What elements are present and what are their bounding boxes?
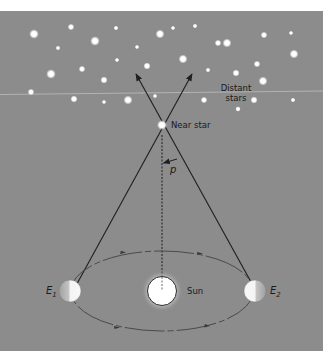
distant-star-core <box>225 41 229 45</box>
stellar-parallax-diagram: Distant stars p Near star Sun E1 E2 <box>0 0 332 360</box>
distant-star-core <box>216 41 219 44</box>
distant-star-core <box>262 33 265 36</box>
distant-star-core <box>202 98 205 101</box>
distant-star-core <box>103 101 105 103</box>
distant-star-core <box>261 79 265 83</box>
near-star-label: Near star <box>171 120 211 130</box>
sun-label: Sun <box>187 286 203 296</box>
distant-star-core <box>126 98 130 102</box>
distant-star-core <box>292 99 294 101</box>
parallax-angle-label: p <box>169 164 176 175</box>
distant-star-core <box>102 78 105 81</box>
distant-star-core <box>29 90 32 93</box>
distant-star-core <box>69 25 72 28</box>
distant-star-core <box>116 59 118 61</box>
distant-star-core <box>181 57 185 61</box>
distant-star-core <box>290 32 292 34</box>
distant-star-core <box>207 69 209 71</box>
distant-star-core <box>72 97 75 100</box>
distant-stars-label-line2: stars <box>226 93 247 103</box>
distant-star-core <box>115 27 117 29</box>
distant-stars-label: Distant <box>221 83 252 93</box>
distant-star-core <box>154 95 156 97</box>
distant-star-core <box>32 32 36 36</box>
distant-star-core <box>80 67 83 70</box>
distant-star-core <box>292 52 296 56</box>
distant-star-core <box>93 39 97 43</box>
distant-star-core <box>255 62 258 65</box>
distant-star-core <box>49 72 53 76</box>
distant-star-core <box>234 71 237 74</box>
distant-star-core <box>145 64 148 67</box>
near-star-core <box>159 122 164 127</box>
distant-star-core <box>194 25 196 27</box>
distant-star-core <box>172 27 174 29</box>
distant-star-core <box>158 32 162 36</box>
distant-star-core <box>136 46 138 48</box>
distant-star-core <box>57 47 59 49</box>
distant-star-core <box>252 98 255 101</box>
earth-position-1 <box>59 280 81 302</box>
earth-position-2 <box>244 280 266 302</box>
distant-star-core <box>237 108 240 111</box>
